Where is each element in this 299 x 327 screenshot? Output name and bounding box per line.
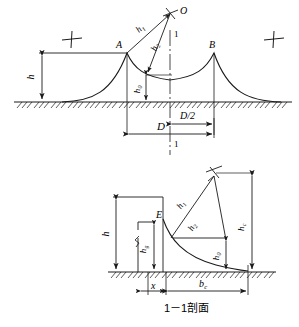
dimension-label-h-section: h bbox=[101, 232, 111, 237]
section-mark-bottom: 1 bbox=[174, 140, 179, 149]
dimension-h0-top bbox=[146, 75, 172, 100]
dimension-label-h0-top: h0 bbox=[133, 85, 144, 93]
profile-curve-top bbox=[62, 53, 281, 102]
point-label-E: E bbox=[156, 210, 162, 220]
dimension-label-hg-section: hg bbox=[139, 245, 150, 253]
dimension-label-h-top: h bbox=[26, 75, 36, 80]
turbine-icon-top bbox=[163, 8, 178, 19]
slant-line-h2-section bbox=[214, 176, 226, 240]
ground-line-top bbox=[14, 102, 292, 108]
dimension-label-x-section: x bbox=[151, 281, 155, 291]
point-label-O: O bbox=[180, 6, 187, 16]
section-mark-top: 1 bbox=[174, 30, 179, 39]
profile-curve-section bbox=[163, 219, 248, 271]
dimension-label-D2-top: D/2 bbox=[180, 111, 195, 121]
turbine-icon-section bbox=[206, 166, 222, 181]
cross-marker-left-icon bbox=[62, 31, 82, 48]
dimension-label-hc-section: hc bbox=[237, 224, 248, 231]
dimension-label-bc-section: bc bbox=[199, 279, 207, 290]
cross-marker-right-icon bbox=[264, 31, 284, 48]
figure-caption: 1－1剖面 bbox=[164, 303, 209, 314]
ground-line-section bbox=[108, 272, 276, 278]
point-label-B: B bbox=[209, 40, 215, 50]
point-label-A: A bbox=[116, 40, 122, 50]
dimension-label-h0-section: h0 bbox=[212, 252, 223, 260]
top-view-group bbox=[14, 8, 292, 155]
dimension-label-D-top: D bbox=[157, 121, 165, 132]
